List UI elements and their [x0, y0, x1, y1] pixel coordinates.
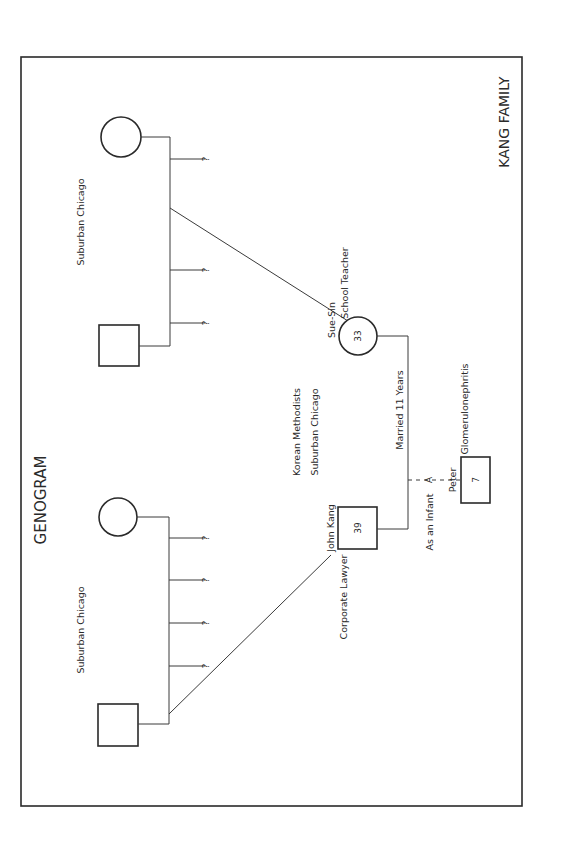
husband-name: John Kang: [325, 504, 336, 553]
lower-unknown-sibling-2: ?: [201, 577, 211, 582]
upper-grandmother-symbol: [101, 117, 141, 157]
upper-unknown-sibling-2: ?: [201, 267, 211, 272]
lower-unknown-sibling-1: ?: [201, 535, 211, 540]
child-condition: Glomerulonephritis: [459, 363, 470, 454]
upper-unknown-sibling-3: ?: [201, 320, 211, 325]
genogram-diagram: GENOGRAM KANG FAMILY Suburban Chicago ? …: [0, 0, 562, 862]
residence-label: Suburban Chicago: [309, 388, 320, 475]
diagram-border: [21, 57, 522, 806]
child-name: Peter: [447, 468, 458, 493]
child-age: 7: [471, 477, 481, 483]
wife-age: 33: [353, 330, 363, 341]
wife-occupation: School Teacher: [339, 247, 350, 319]
lower-family-location: Suburban Chicago: [75, 586, 86, 673]
husband-occupation: Corporate Lawyer: [338, 555, 349, 640]
upper-grandfather-symbol: [99, 325, 139, 366]
upper-unknown-sibling-1: ?: [201, 156, 211, 161]
wife-name: Sue-Sin: [326, 302, 337, 338]
lower-unknown-sibling-3: ?: [201, 620, 211, 625]
upper-sibship-line: [139, 137, 170, 346]
upper-family-location: Suburban Chicago: [75, 178, 86, 265]
adoption-marker: A: [424, 476, 434, 483]
lower-grandmother-symbol: [99, 498, 137, 536]
family-name-label: KANG FAMILY: [496, 76, 512, 168]
husband-descent-line: [169, 555, 331, 714]
marriage-duration: Married 11 Years: [394, 370, 405, 449]
religion-label: Korean Methodists: [291, 388, 302, 476]
lower-sibship-line: [137, 517, 169, 724]
adoption-note: As an Infant: [424, 493, 435, 550]
lower-unknown-sibling-4: ?: [201, 663, 211, 668]
husband-age: 39: [353, 522, 363, 534]
lower-grandfather-symbol: [98, 704, 138, 746]
wife-descent-line: [170, 208, 348, 321]
genogram-title: GENOGRAM: [32, 456, 50, 545]
